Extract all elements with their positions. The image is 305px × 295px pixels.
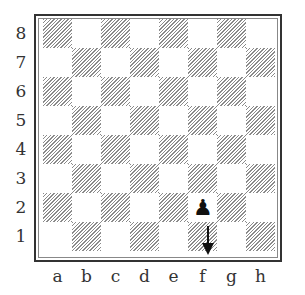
square-e8	[159, 19, 188, 48]
square-c7	[101, 48, 130, 77]
square-a6	[43, 77, 72, 106]
square-g3	[217, 164, 246, 193]
square-h7	[246, 48, 275, 77]
square-c1	[101, 222, 130, 251]
square-a1	[43, 222, 72, 251]
square-g6	[217, 77, 246, 106]
square-a5	[43, 106, 72, 135]
square-g7	[217, 48, 246, 77]
file-label-g: g	[217, 266, 246, 286]
square-g4	[217, 135, 246, 164]
square-h5	[246, 106, 275, 135]
rank-label-2: 2	[14, 197, 28, 217]
square-g2	[217, 193, 246, 222]
square-d7	[130, 48, 159, 77]
file-label-c: c	[101, 266, 130, 286]
square-b1	[72, 222, 101, 251]
square-f6	[188, 77, 217, 106]
chess-board: ♟	[43, 19, 275, 251]
square-f4	[188, 135, 217, 164]
square-b4	[72, 135, 101, 164]
square-b8	[72, 19, 101, 48]
square-h4	[246, 135, 275, 164]
square-a2	[43, 193, 72, 222]
black-pawn-icon: ♟	[190, 195, 215, 220]
square-a3	[43, 164, 72, 193]
square-h1	[246, 222, 275, 251]
rank-label-3: 3	[14, 168, 28, 188]
square-a8	[43, 19, 72, 48]
square-d5	[130, 106, 159, 135]
square-c8	[101, 19, 130, 48]
square-f3	[188, 164, 217, 193]
square-d6	[130, 77, 159, 106]
square-d3	[130, 164, 159, 193]
rank-label-4: 4	[14, 139, 28, 159]
square-e7	[159, 48, 188, 77]
square-e5	[159, 106, 188, 135]
square-g5	[217, 106, 246, 135]
square-b2	[72, 193, 101, 222]
rank-label-7: 7	[14, 52, 28, 72]
square-a7	[43, 48, 72, 77]
square-h6	[246, 77, 275, 106]
square-f7	[188, 48, 217, 77]
square-c6	[101, 77, 130, 106]
square-b6	[72, 77, 101, 106]
square-c2	[101, 193, 130, 222]
square-d8	[130, 19, 159, 48]
file-label-a: a	[43, 266, 72, 286]
square-c5	[101, 106, 130, 135]
square-d4	[130, 135, 159, 164]
file-label-b: b	[72, 266, 101, 286]
square-f2: ♟	[188, 193, 217, 222]
rank-label-5: 5	[14, 110, 28, 130]
square-e6	[159, 77, 188, 106]
file-label-e: e	[159, 266, 188, 286]
square-b7	[72, 48, 101, 77]
square-f8	[188, 19, 217, 48]
square-c3	[101, 164, 130, 193]
square-g1	[217, 222, 246, 251]
arrow-down-icon	[201, 226, 215, 256]
file-label-f: f	[188, 266, 217, 286]
square-h3	[246, 164, 275, 193]
square-e1	[159, 222, 188, 251]
square-e2	[159, 193, 188, 222]
square-b5	[72, 106, 101, 135]
file-label-h: h	[246, 266, 275, 286]
square-f5	[188, 106, 217, 135]
square-b3	[72, 164, 101, 193]
rank-label-1: 1	[14, 226, 28, 246]
rank-label-6: 6	[14, 81, 28, 101]
square-g8	[217, 19, 246, 48]
square-e4	[159, 135, 188, 164]
square-e3	[159, 164, 188, 193]
file-label-d: d	[130, 266, 159, 286]
square-h2	[246, 193, 275, 222]
square-d1	[130, 222, 159, 251]
rank-label-8: 8	[14, 23, 28, 43]
square-a4	[43, 135, 72, 164]
square-h8	[246, 19, 275, 48]
square-c4	[101, 135, 130, 164]
square-d2	[130, 193, 159, 222]
